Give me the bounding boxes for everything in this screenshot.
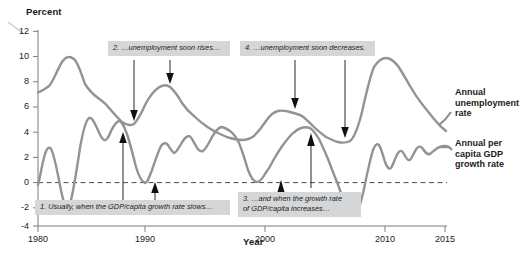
annotation-box-4: 4. …unemployment soon decreases. xyxy=(240,41,375,56)
legend-label-gdp-growth-rate: Annual per capita GDP growth rate xyxy=(455,138,504,170)
leader-annotation-4 xyxy=(291,60,349,138)
legend-connector-unemployment xyxy=(439,112,451,125)
annotation-box-1: 1. Usually, when the GDP/capita growth r… xyxy=(35,200,230,215)
annotation-box-3: 3. …and when the growth rate of GDP/capi… xyxy=(238,192,361,217)
y-tick-label-8: 8 xyxy=(9,76,29,86)
x-tick-label-2010: 2010 xyxy=(365,234,405,244)
y-tick-label-12: 12 xyxy=(9,26,29,36)
x-tick-label-2015: 2015 xyxy=(425,234,465,244)
leader-annotation-3 xyxy=(277,133,315,193)
y-axis-title: Percent xyxy=(26,6,62,17)
leader-annotation-2 xyxy=(130,60,174,121)
y-tick-label-10: 10 xyxy=(9,51,29,61)
y-tickmarks xyxy=(33,31,38,226)
x-tick-label-1980: 1980 xyxy=(18,234,58,244)
y-tick-label-2: 2 xyxy=(9,152,29,162)
y-tick-label-4: 4 xyxy=(9,127,29,137)
x-tickmarks xyxy=(38,226,445,232)
legend-label-unemployment-rate: Annual unemployment rate xyxy=(455,87,519,119)
series-unemployment-rate xyxy=(38,57,446,143)
chart-figure: Percent Year 12 10 8 6 4 2 0 -2 -4 1980 … xyxy=(0,0,521,253)
x-tick-label-2000: 2000 xyxy=(245,234,285,244)
y-tick-label-neg4: -4 xyxy=(9,221,29,231)
y-tick-label-neg2: -2 xyxy=(9,202,29,212)
y-tick-label-0: 0 xyxy=(9,177,29,187)
annotation-box-2: 2. …unemployment soon rises… xyxy=(108,41,230,56)
y-tick-label-6: 6 xyxy=(9,101,29,111)
x-tick-label-1990: 1990 xyxy=(125,234,165,244)
